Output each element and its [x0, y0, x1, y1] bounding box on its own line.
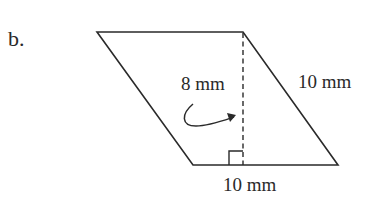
problem-label: b. — [8, 26, 25, 51]
height-pointer-arrow-icon — [184, 104, 234, 126]
parallelogram-diagram: b. 8 mm 10 mm 10 mm — [0, 0, 385, 203]
height-label: 8 mm — [181, 73, 225, 94]
right-angle-marker-icon — [229, 151, 243, 165]
arrowhead-icon — [227, 113, 236, 122]
side-label: 10 mm — [298, 71, 352, 92]
parallelogram-shape — [97, 32, 338, 165]
base-label: 10 mm — [223, 174, 277, 195]
